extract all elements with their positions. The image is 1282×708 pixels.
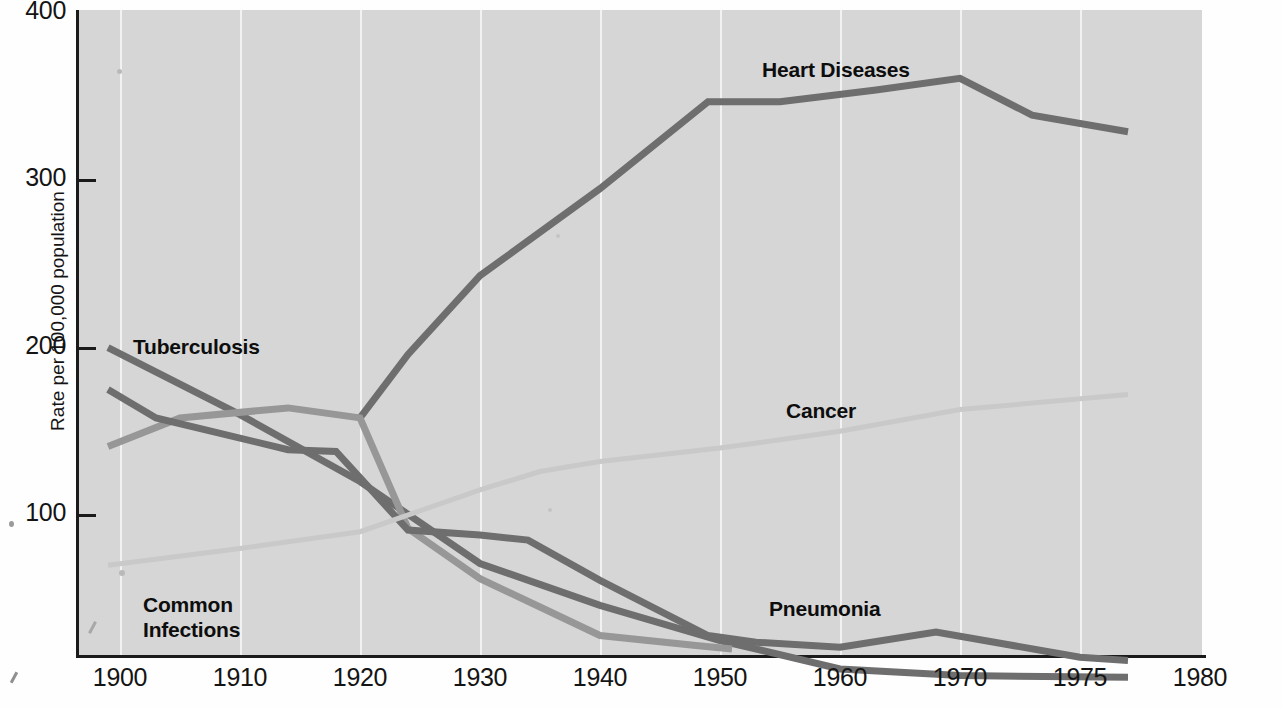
gridline-1910 xyxy=(240,10,242,655)
x-axis-line xyxy=(76,655,1206,658)
series-label-common-infections: Common Infections xyxy=(143,593,240,643)
plot-area xyxy=(78,10,1202,655)
gridline-1950 xyxy=(720,10,722,655)
gridline-1900 xyxy=(120,10,122,655)
scan-artifact xyxy=(10,671,18,683)
series-label-pneumonia: Pneumonia xyxy=(769,597,880,622)
scan-artifact xyxy=(117,69,122,74)
x-tick-label-1970: 1970 xyxy=(933,663,987,692)
scan-artifact xyxy=(119,570,125,576)
gridline-1975 xyxy=(1080,10,1082,655)
x-tick-label-1930: 1930 xyxy=(453,663,507,692)
gridline-1920 xyxy=(360,10,362,655)
scan-artifact xyxy=(556,234,560,238)
x-tick-label-1900: 1900 xyxy=(93,663,147,692)
x-tick-label-1910: 1910 xyxy=(213,663,267,692)
y-tick-mark-100 xyxy=(79,514,96,517)
gridline-1930 xyxy=(480,10,482,655)
x-tick-label-1920: 1920 xyxy=(333,663,387,692)
series-label-tuberculosis: Tuberculosis xyxy=(133,335,260,360)
y-tick-mark-200 xyxy=(79,347,96,350)
y-axis-title: Rate per 100,000 population xyxy=(47,161,69,461)
gridline-1970 xyxy=(960,10,962,655)
gridline-1960 xyxy=(840,10,842,655)
y-tick-label-400: 400 xyxy=(0,0,66,25)
y-tick-mark-300 xyxy=(79,179,96,182)
y-tick-label-200: 200 xyxy=(0,331,66,360)
x-tick-label-1980: 1980 xyxy=(1173,663,1227,692)
x-tick-label-1960: 1960 xyxy=(813,663,867,692)
gridline-1940 xyxy=(600,10,602,655)
x-tick-label-1975: 1975 xyxy=(1053,663,1107,692)
x-tick-label-1950: 1950 xyxy=(693,663,747,692)
y-tick-label-100: 100 xyxy=(0,498,66,527)
series-label-cancer: Cancer xyxy=(786,399,856,424)
chart-figure: Rate per 100,000 population 100200300400… xyxy=(0,0,1282,708)
series-label-heart-diseases: Heart Diseases xyxy=(762,58,910,83)
x-tick-label-1940: 1940 xyxy=(573,663,627,692)
y-tick-label-300: 300 xyxy=(0,163,66,192)
scan-artifact xyxy=(548,508,552,512)
y-axis-line xyxy=(76,10,79,658)
